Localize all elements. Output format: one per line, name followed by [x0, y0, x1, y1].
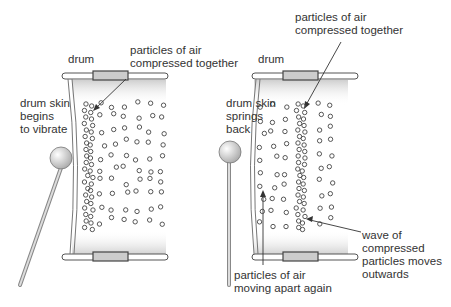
right-wave-label: wave of compressed particles moves outwa…: [362, 229, 442, 281]
left-drum-label: drum: [68, 53, 94, 66]
right-drum: [219, 42, 361, 285]
left-skin-label: drum skin begins to vibrate: [20, 97, 70, 136]
right-apart-label: particles of air moving apart again: [234, 269, 332, 295]
right-skin-label: drum skin springs back: [226, 97, 276, 136]
right-drum-label: drum: [258, 53, 284, 66]
right-compressed-label: particles of air compressed together: [295, 11, 403, 37]
left-compressed-label: particles of air compressed together: [130, 44, 238, 70]
